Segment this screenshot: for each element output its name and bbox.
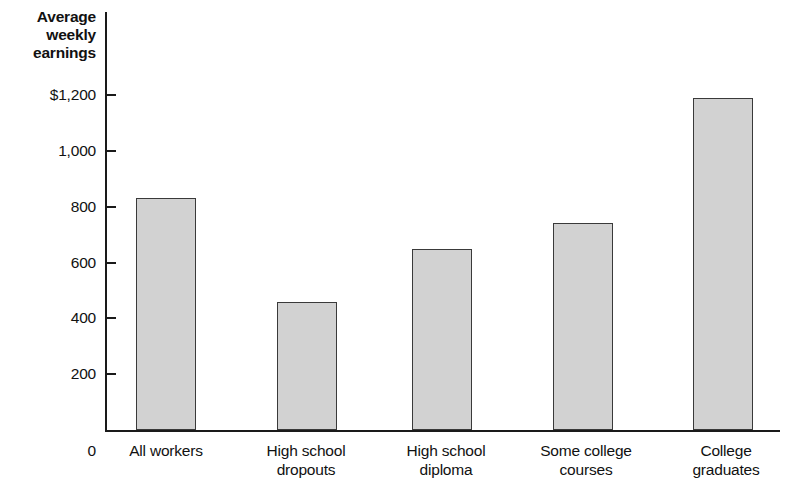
x-axis-category-label: Some college courses [526, 441, 646, 479]
bar [693, 98, 753, 430]
y-axis-tick-label: 200 [0, 366, 96, 382]
y-axis-tick [107, 317, 116, 319]
y-axis-tick [107, 262, 116, 264]
y-axis-tick [107, 150, 116, 152]
x-axis-line [105, 430, 780, 432]
bar-chart: Average weekly earnings 2004006008001,00… [0, 0, 791, 497]
y-axis-title: Average weekly earnings [0, 8, 96, 62]
bar [136, 198, 196, 430]
y-axis-tick [107, 94, 116, 96]
y-axis-tick-label: 400 [0, 310, 96, 326]
y-axis-zero-label: 0 [0, 443, 96, 459]
y-axis-tick-label: 1,000 [0, 143, 96, 159]
x-axis-category-label: High school diploma [386, 441, 506, 479]
bar [412, 249, 472, 430]
x-axis-category-label: College graduates [666, 441, 786, 479]
y-axis-tick [107, 373, 116, 375]
x-axis-category-label: All workers [106, 441, 226, 460]
y-axis-line [105, 12, 107, 431]
y-axis-tick [107, 206, 116, 208]
y-axis-tick-label: 800 [0, 199, 96, 215]
y-axis-tick-label: 600 [0, 255, 96, 271]
bar [553, 223, 613, 430]
y-axis-tick-label: $1,200 [0, 87, 96, 103]
bar [277, 302, 337, 430]
x-axis-category-label: High school dropouts [246, 441, 366, 479]
